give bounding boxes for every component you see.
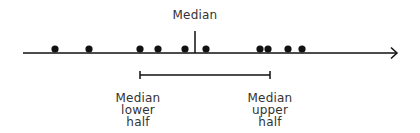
data-point — [181, 45, 188, 52]
interquartile-bracket — [140, 71, 270, 79]
data-point — [298, 45, 305, 52]
data-point — [264, 45, 271, 52]
data-point — [85, 45, 92, 52]
median-label-text: Median — [170, 9, 220, 21]
median-label: Median — [170, 9, 220, 21]
data-point — [136, 45, 143, 52]
median-upper-half-label: Median upper half — [245, 92, 295, 128]
data-point — [256, 45, 263, 52]
data-point — [51, 45, 58, 52]
lower-label-line3: half — [113, 116, 163, 128]
data-points — [51, 45, 305, 52]
data-point — [154, 45, 161, 52]
median-lower-half-label: Median lower half — [113, 92, 163, 128]
data-point — [202, 45, 209, 52]
data-point — [284, 45, 291, 52]
upper-label-line3: half — [245, 116, 295, 128]
